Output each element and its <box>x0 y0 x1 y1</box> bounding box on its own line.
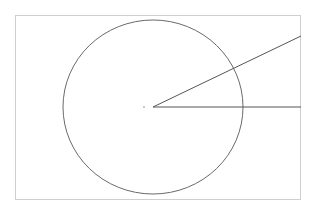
angle-ray-upper <box>153 36 301 107</box>
diagram-canvas <box>0 0 319 215</box>
center-dot <box>143 106 145 108</box>
